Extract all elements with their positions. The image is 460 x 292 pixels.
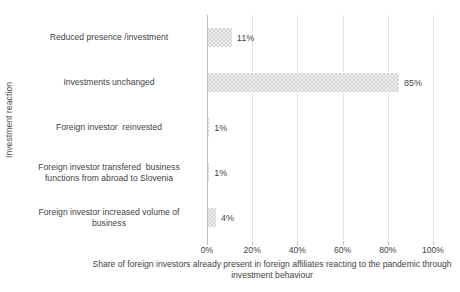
bar[interactable] <box>207 73 399 92</box>
x-axis-tick-labels: 0%20%40%60%80%100% <box>207 245 433 259</box>
category-label: Reduced presence /investment <box>18 32 200 43</box>
bar-value-label: 4% <box>221 213 234 223</box>
bar-row: 85% <box>207 73 433 92</box>
bar-value-label: 1% <box>214 123 227 133</box>
category-label: Foreign investor reinvested <box>18 122 200 133</box>
y-axis-title-text: Investment reaction <box>4 82 14 158</box>
x-tick-label: 60% <box>334 245 351 255</box>
bar-row: 11% <box>207 28 433 47</box>
x-tick-label: 80% <box>379 245 396 255</box>
bar-row: 1% <box>207 118 433 137</box>
y-axis-line <box>207 15 208 241</box>
bar-value-label: 1% <box>214 168 227 178</box>
x-tick-label: 0% <box>201 245 213 255</box>
gridline-100% <box>433 15 434 240</box>
x-tick-label: 20% <box>244 245 261 255</box>
x-tick-label: 100% <box>422 245 444 255</box>
bar[interactable] <box>207 208 216 227</box>
bar-value-label: 11% <box>237 33 254 43</box>
y-axis-title: Investment reaction <box>0 0 18 240</box>
category-label: Foreign investor increased volume of bus… <box>18 207 200 229</box>
category-label: Investments unchanged <box>18 77 200 88</box>
bar-row: 4% <box>207 208 433 227</box>
x-axis-title: Share of foreign investors already prese… <box>88 259 456 281</box>
bar-value-label: 85% <box>404 78 422 88</box>
bar-row: 1% <box>207 163 433 182</box>
plot-area: 11%85%1%1%4% <box>207 15 433 240</box>
x-tick-label: 40% <box>289 245 306 255</box>
category-label: Foreign investor transfered business fun… <box>18 162 200 184</box>
bar[interactable] <box>207 28 232 47</box>
bar-chart: Investment reaction Reduced presence /in… <box>0 0 460 292</box>
y-axis-category-labels: Reduced presence /investmentInvestments … <box>18 15 204 240</box>
